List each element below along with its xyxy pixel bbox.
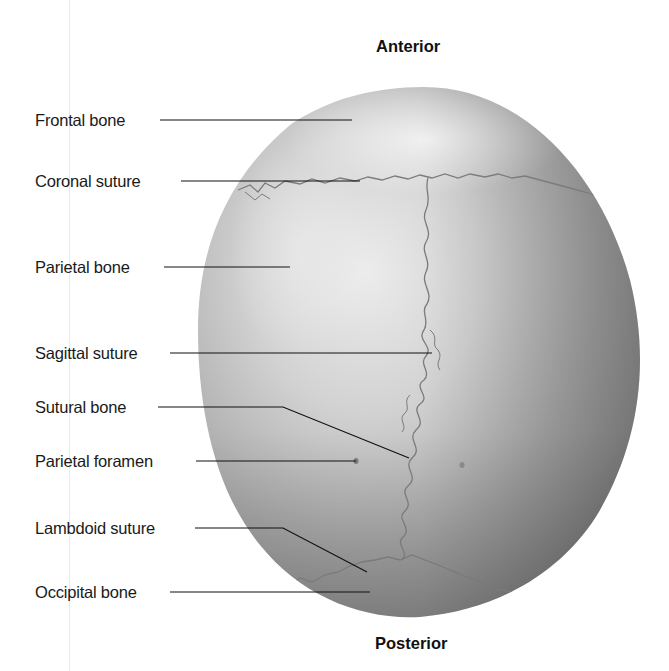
label-parietal-foramen: Parietal foramen xyxy=(35,453,153,470)
label-coronal-suture: Coronal suture xyxy=(35,173,140,190)
label-occipital-bone: Occipital bone xyxy=(35,584,137,601)
orientation-posterior: Posterior xyxy=(375,635,447,652)
label-frontal-bone: Frontal bone xyxy=(35,112,125,129)
label-lambdoid-suture: Lambdoid suture xyxy=(35,520,155,537)
skull-diagram: Anterior Posterior Frontal bone Coronal … xyxy=(0,0,669,671)
label-sagittal-suture: Sagittal suture xyxy=(35,345,137,362)
label-sutural-bone: Sutural bone xyxy=(35,399,126,416)
skull-illustration xyxy=(0,0,669,671)
orientation-anterior: Anterior xyxy=(376,38,440,55)
label-parietal-bone: Parietal bone xyxy=(35,259,130,276)
